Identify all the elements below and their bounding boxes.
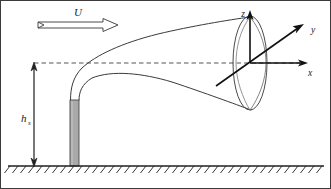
axis-z-label: z <box>240 9 245 19</box>
smoke-stack <box>70 100 79 166</box>
wind-speed-label: U <box>74 6 83 18</box>
stack-height-label-main: h <box>21 112 27 124</box>
stack-height-label-subscript: s <box>28 119 31 127</box>
diagram-canvas: U h s z <box>0 0 331 189</box>
axis-y-label: y <box>310 25 316 35</box>
axis-x-label: x <box>307 68 313 78</box>
figure-border <box>1 1 331 189</box>
plume-diagram-figure: U h s z <box>0 0 331 189</box>
